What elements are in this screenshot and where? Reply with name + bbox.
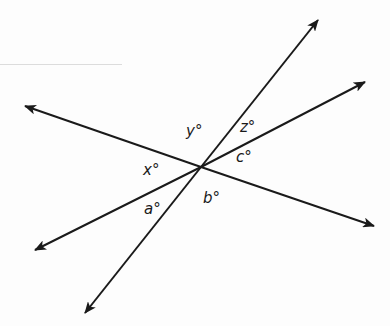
angle-label-b: b° xyxy=(203,191,220,206)
arrow-left-icon xyxy=(25,106,201,167)
arrow-lower-right-icon xyxy=(201,167,374,226)
arrow-right-icon xyxy=(201,82,365,167)
arrow-upper-right-icon xyxy=(201,20,318,167)
angle-label-z: z° xyxy=(240,120,255,135)
lines-svg xyxy=(0,0,390,326)
angle-label-a: a° xyxy=(144,202,161,217)
angle-diagram: y° z° c° x° a° b° xyxy=(0,0,390,326)
arrow-bottom-icon xyxy=(85,167,201,313)
angle-label-y: y° xyxy=(186,124,202,139)
angle-label-x: x° xyxy=(143,163,159,178)
angle-label-c: c° xyxy=(236,150,252,165)
arrow-lower-left-icon xyxy=(35,167,201,250)
